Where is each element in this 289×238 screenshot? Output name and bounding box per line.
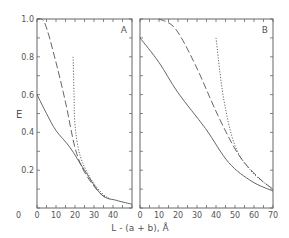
plot-frame — [140, 19, 273, 208]
panel-label: B — [262, 25, 268, 35]
y-tick-label: 0.6 — [21, 91, 34, 100]
panel-label: A — [121, 25, 128, 35]
series-solid-line — [140, 38, 273, 191]
x-tick-label: 0 — [137, 211, 142, 220]
figure: 01020304000.20.40.60.81.0A 0102030405060… — [0, 0, 289, 238]
x-tick-label: 20 — [173, 211, 183, 220]
x-tick-label: 10 — [51, 211, 61, 220]
x-tick-label: 0 — [34, 211, 39, 220]
x-tick-label: 30 — [89, 211, 99, 220]
series-dashed-line — [37, 19, 109, 199]
x-tick-label: 70 — [268, 211, 278, 220]
x-tick-label: 30 — [192, 211, 202, 220]
series-dotted-line — [73, 57, 109, 199]
series-dashed-line — [159, 19, 273, 189]
x-tick-label: 50 — [230, 211, 240, 220]
y-tick-label: 1.0 — [21, 15, 34, 24]
panel-b: 010203040506070B — [137, 19, 278, 220]
y-tick-label: 0.4 — [21, 128, 34, 137]
x-tick-label: 10 — [154, 211, 164, 220]
plot-frame — [37, 19, 132, 208]
y-tick-label: 0.8 — [21, 53, 34, 62]
y-axis-label: E — [16, 109, 22, 120]
series-solid-line — [37, 95, 132, 205]
x-axis-label: L - (a + b), Å — [111, 222, 169, 233]
series-dotted-line — [216, 38, 273, 189]
y-tick-label: 0 — [16, 211, 21, 220]
x-tick-label: 60 — [249, 211, 259, 220]
x-tick-label: 40 — [211, 211, 221, 220]
y-tick-label: 0.2 — [21, 166, 34, 175]
panel-a: 01020304000.20.40.60.81.0A — [16, 15, 132, 220]
x-tick-label: 20 — [70, 211, 80, 220]
x-tick-label: 40 — [108, 211, 118, 220]
chart-canvas: 01020304000.20.40.60.81.0A 0102030405060… — [0, 0, 289, 238]
